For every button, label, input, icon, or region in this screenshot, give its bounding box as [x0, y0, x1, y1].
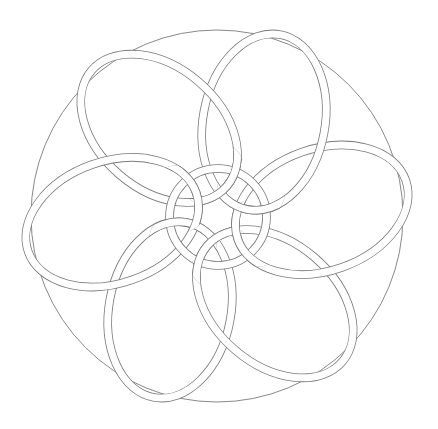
rosette-diagram	[0, 0, 438, 429]
